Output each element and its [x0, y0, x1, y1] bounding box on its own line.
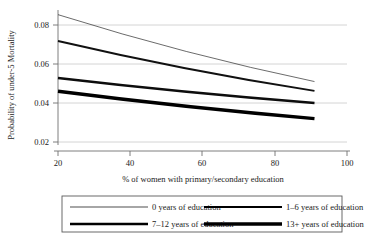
x-tick-label-2: 60 [198, 158, 207, 168]
x-axis-title: % of women with primary/secondary educat… [122, 174, 284, 184]
legend-label-3: 13+ years of education [286, 219, 364, 229]
under5-mortality-line-chart: 0.08 0.06 0.04 0.02 20 40 60 80 100 % of… [0, 0, 366, 240]
y-tick-label-1: 0.06 [34, 59, 49, 69]
x-tick-label-1: 40 [126, 158, 135, 168]
chart-figure: 0.08 0.06 0.04 0.02 20 40 60 80 100 % of… [0, 0, 366, 240]
y-tick-label-0: 0.08 [34, 20, 49, 30]
x-tick-label-4: 100 [341, 158, 354, 168]
y-tick-label-3: 0.02 [34, 137, 49, 147]
legend-label-1: 1–6 years of education [286, 202, 364, 212]
x-tick-label-0: 20 [54, 158, 63, 168]
x-tick-label-3: 80 [271, 158, 280, 168]
y-axis-title: Probability of under-5 Mortality [6, 29, 16, 139]
y-tick-label-2: 0.04 [34, 98, 50, 108]
